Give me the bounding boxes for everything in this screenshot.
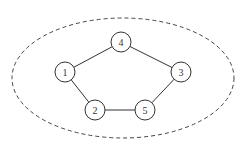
node-label: 1 bbox=[63, 67, 68, 78]
edge-1-4 bbox=[74, 47, 112, 68]
edge-4-3 bbox=[130, 46, 172, 67]
node-4: 4 bbox=[111, 32, 131, 52]
node-1: 1 bbox=[55, 62, 75, 82]
edge-2-1 bbox=[71, 80, 89, 102]
node-label: 2 bbox=[93, 105, 98, 116]
node-5: 5 bbox=[135, 100, 155, 120]
edge-3-5 bbox=[152, 79, 174, 102]
node-label: 3 bbox=[179, 67, 184, 78]
node-3: 3 bbox=[171, 62, 191, 82]
node-label: 4 bbox=[119, 37, 124, 48]
nodes-group: 12345 bbox=[55, 32, 191, 120]
graph-diagram: 12345 bbox=[0, 0, 246, 149]
node-2: 2 bbox=[85, 100, 105, 120]
node-label: 5 bbox=[143, 105, 148, 116]
edges-group bbox=[71, 46, 174, 110]
